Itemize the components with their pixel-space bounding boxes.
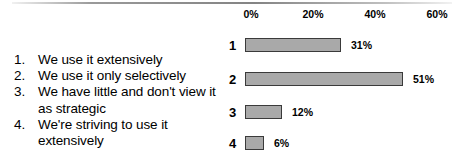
bar-value-label-3: 12% — [292, 106, 313, 118]
list-item-number: 3. — [12, 84, 38, 100]
bar-row: 2 51% — [225, 71, 457, 87]
bar-category-number: 3 — [229, 105, 241, 120]
bar-row: 3 12% — [225, 104, 457, 120]
bar-category-number: 2 — [229, 72, 241, 87]
bar-2 — [245, 72, 403, 86]
list-item-number: 4. — [12, 117, 38, 133]
list-item-label: We use it extensively — [38, 52, 217, 68]
list-item-label: We use it only selectively — [38, 68, 217, 84]
list-item-number: 2. — [12, 68, 38, 84]
bar-3 — [245, 105, 282, 119]
bar-value-label-2: 51% — [413, 73, 434, 85]
list-item: 2. We use it only selectively — [12, 68, 217, 84]
list-item: 4. We're striving to use it extensively — [12, 117, 217, 149]
bar-value-label-1: 31% — [351, 39, 372, 51]
list-item-label: We're striving to use it extensively — [38, 117, 217, 149]
bar-row: 1 31% — [225, 37, 457, 53]
list-item: 3. We have little and don't view it as s… — [12, 84, 217, 116]
legend-list: 1. We use it extensively 2. We use it on… — [12, 52, 217, 149]
bar-rows: 1 31% 2 51% 3 12% 4 6% — [225, 0, 457, 160]
chart-figure: 1. We use it extensively 2. We use it on… — [0, 0, 457, 160]
bar-row: 4 6% — [225, 135, 457, 151]
list-item: 1. We use it extensively — [12, 52, 217, 68]
list-item-number: 1. — [12, 52, 38, 68]
bar-chart: 0% 20% 40% 60% 1 31% 2 51% 3 12% 4 — [225, 0, 457, 160]
list-item-label: We have little and don't view it as stra… — [38, 84, 217, 116]
bar-4 — [245, 136, 264, 150]
bar-category-number: 1 — [229, 38, 241, 53]
bar-category-number: 4 — [229, 136, 241, 151]
bar-1 — [245, 38, 341, 52]
bar-value-label-4: 6% — [274, 137, 289, 149]
